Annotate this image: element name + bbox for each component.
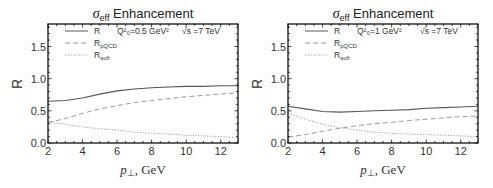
chart-canvas: σeff Enhancement246810120.00.51.01.5Rp⊥,… xyxy=(0,0,493,188)
x-axis-label: p⊥, GeV xyxy=(119,162,166,178)
y-tick-label: 1.0 xyxy=(271,73,286,85)
x-tick-label: 10 xyxy=(180,145,192,157)
chart-title: σeff Enhancement xyxy=(93,6,194,23)
plot-frame xyxy=(288,24,478,143)
x-tick-label: 6 xyxy=(114,145,120,157)
legend-label: RpQCD xyxy=(94,38,117,49)
y-tick-label: 1.5 xyxy=(31,41,46,53)
series-r-soft-line xyxy=(48,122,238,138)
series-r-line xyxy=(48,86,238,101)
legend-label: R xyxy=(94,26,100,36)
x-tick-label: 12 xyxy=(215,145,227,157)
x-tick-label: 8 xyxy=(389,145,395,157)
sqrt-s-annotation: √s =7 TeV xyxy=(182,26,220,36)
legend-label: RpQCD xyxy=(334,38,357,49)
x-tick-label: 8 xyxy=(149,145,155,157)
y-axis-label: R xyxy=(9,79,25,89)
series-r-pqcd-line xyxy=(288,116,478,137)
y-tick-label: 0.5 xyxy=(31,105,46,117)
chart-panel-2: σeff Enhancement246810120.00.51.01.5Rp⊥,… xyxy=(249,6,478,178)
x-axis-label: p⊥, GeV xyxy=(359,162,406,178)
x-tick-label: 4 xyxy=(79,145,85,157)
y-axis-label: R xyxy=(249,79,265,89)
legend-label: R xyxy=(334,26,340,36)
y-tick-label: 0.5 xyxy=(271,105,286,117)
sqrt-s-annotation: √s =7 TeV xyxy=(420,26,458,36)
series-r-soft-line xyxy=(288,113,478,136)
x-tick-label: 4 xyxy=(319,145,325,157)
q2-annotation: Q²₀=1 GeV² xyxy=(357,26,402,36)
y-tick-label: 1.0 xyxy=(31,73,46,85)
plot-frame xyxy=(48,24,238,143)
chart-panel-1: σeff Enhancement246810120.00.51.01.5Rp⊥,… xyxy=(9,6,238,178)
x-tick-label: 12 xyxy=(455,145,467,157)
series-r-pqcd-line xyxy=(48,93,238,123)
chart-title: σeff Enhancement xyxy=(333,6,434,23)
q2-annotation: Q²₀=0.5 GeV² xyxy=(117,26,169,36)
legend-label: Rsoft xyxy=(94,50,110,61)
y-tick-label: 0.0 xyxy=(31,137,46,149)
y-tick-label: 1.5 xyxy=(271,41,286,53)
y-tick-label: 0.0 xyxy=(271,137,286,149)
series-r-line xyxy=(288,106,478,112)
legend-label: Rsoft xyxy=(334,50,350,61)
x-tick-label: 6 xyxy=(354,145,360,157)
x-tick-label: 10 xyxy=(420,145,432,157)
